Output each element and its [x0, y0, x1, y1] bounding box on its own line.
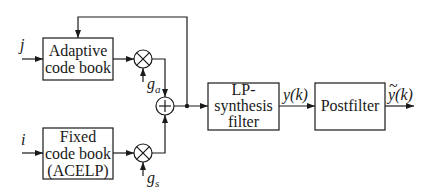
gain-ga-label: ga [147, 75, 161, 98]
input-i-label: i [21, 131, 25, 148]
postfilter-label: Postfilter [315, 97, 385, 114]
junction-dot [185, 104, 189, 108]
lp-synthesis-label: LP- synthesis filter [208, 82, 279, 130]
input-j-label: j [20, 36, 24, 53]
fixed-line3: (ACELP) [43, 162, 113, 179]
gs-subscript: s [155, 177, 159, 189]
gs-symbol: g [147, 169, 155, 186]
lp-line1: LP- [208, 82, 279, 98]
adaptive-codebook-label: Adaptive code book [43, 42, 113, 76]
adaptive-line1: Adaptive [43, 42, 113, 59]
ga-symbol: g [147, 75, 155, 92]
gain-gs-label: gs [147, 169, 159, 192]
fixed-codebook-label: Fixed code book (ACELP) [43, 128, 113, 179]
lp-line3: filter [208, 114, 279, 130]
fixed-line2: code book [43, 145, 113, 162]
fixed-line1: Fixed [43, 128, 113, 145]
lp-line2: synthesis [208, 98, 279, 114]
tilde-accent: ~ [389, 77, 398, 94]
adaptive-line2: code book [43, 59, 113, 76]
signal-ytilde-label: y(k) ~ [388, 86, 413, 103]
signal-y-label: y(k) [283, 86, 308, 103]
ga-subscript: a [155, 83, 161, 95]
celp-decoder-diagram: Adaptive code book Fixed code book (ACEL… [0, 0, 434, 192]
